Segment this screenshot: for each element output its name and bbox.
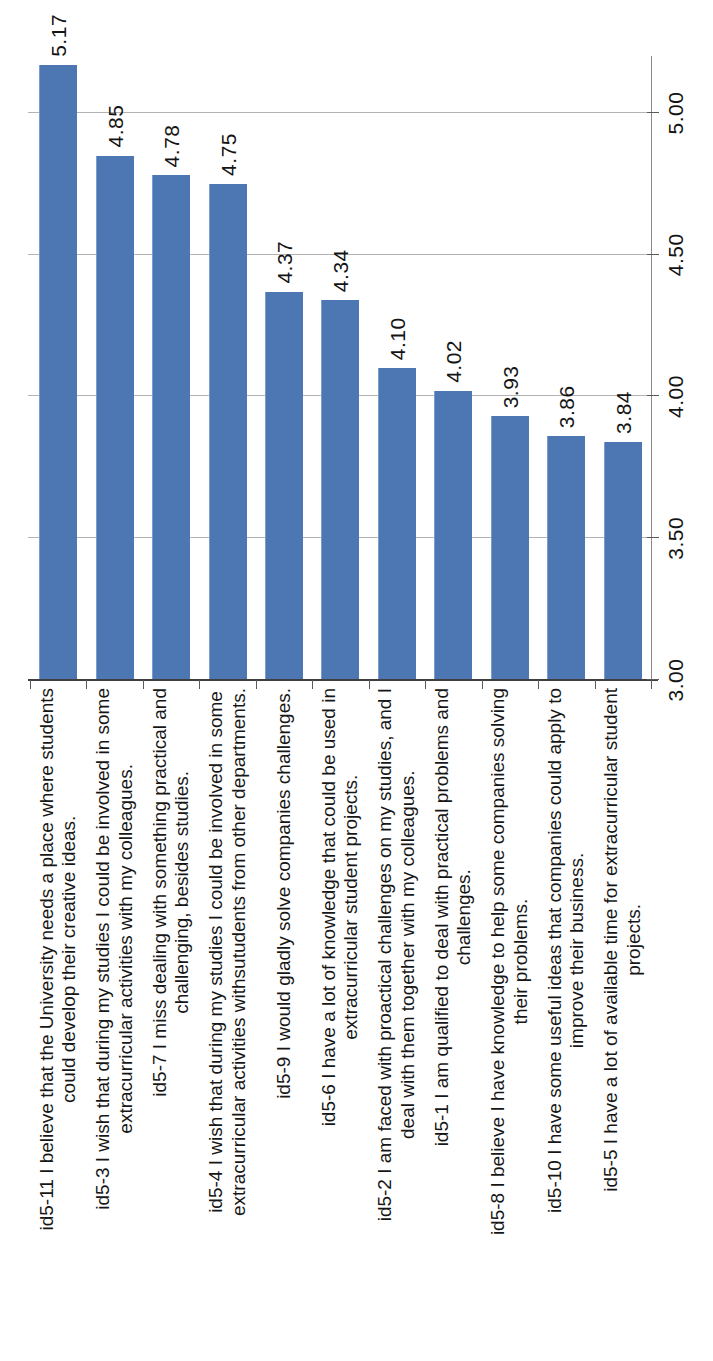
axis-tick-label: 3.50 <box>665 517 686 560</box>
axis-tick-label: 3.00 <box>665 659 686 702</box>
chart-rotator: 5.174.854.784.754.374.344.104.023.933.86… <box>0 0 713 1361</box>
scanned-page: 5.174.854.784.754.374.344.104.023.933.86… <box>0 0 713 1361</box>
axis-tick-label: 5.00 <box>665 92 686 135</box>
axis-tick-label: 4.00 <box>665 375 686 418</box>
bar-chart-canvas: 5.174.854.784.754.374.344.104.023.933.86… <box>0 0 713 1361</box>
axis-tick-label: 4.50 <box>665 233 686 276</box>
value-axis-labels-layer: 3.003.504.004.505.00 <box>0 0 713 1361</box>
